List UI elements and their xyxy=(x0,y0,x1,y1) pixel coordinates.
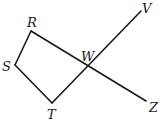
label-R: R xyxy=(26,15,37,30)
segment-RS xyxy=(15,31,31,65)
label-Z: Z xyxy=(148,100,159,115)
line-RZ xyxy=(31,31,146,101)
segment-ST xyxy=(15,65,52,103)
label-S: S xyxy=(2,59,11,74)
label-V: V xyxy=(142,1,153,16)
diagram-canvas: R S T W V Z xyxy=(0,0,166,121)
geometry-diagram: R S T W V Z xyxy=(0,0,166,121)
label-W: W xyxy=(81,49,96,64)
label-T: T xyxy=(47,107,57,121)
